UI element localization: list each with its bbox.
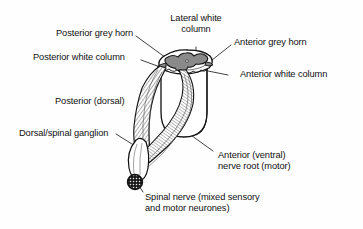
label-posterior-white-column: Posterior white column: [33, 52, 125, 64]
label-posterior-dorsal: Posterior (dorsal): [55, 96, 125, 108]
figure-canvas: Posterior grey horn Lateral white column…: [0, 0, 363, 229]
label-spinal-nerve-line2: and motor neurones): [145, 203, 229, 215]
label-posterior-grey-horn: Posterior grey horn: [56, 28, 133, 40]
label-anterior-grey-horn: Anterior grey horn: [234, 37, 307, 49]
spinal-nerve-cut-end: [128, 175, 143, 190]
leader-anterior-white-column: [208, 71, 228, 75]
label-anterior-ventral-root-line2: nerve root (motor): [218, 161, 291, 173]
label-lateral-white-column-line2: column: [160, 24, 232, 36]
label-spinal-nerve-line1: Spinal nerve (mixed sensory: [145, 192, 260, 204]
label-anterior-white-column: Anterior white column: [240, 69, 327, 81]
label-dorsal-spinal-ganglion: Dorsal/spinal ganglion: [19, 128, 108, 140]
label-anterior-ventral-root-line1: Anterior (ventral): [218, 150, 285, 162]
label-lateral-white-column-line1: Lateral white: [160, 13, 232, 25]
